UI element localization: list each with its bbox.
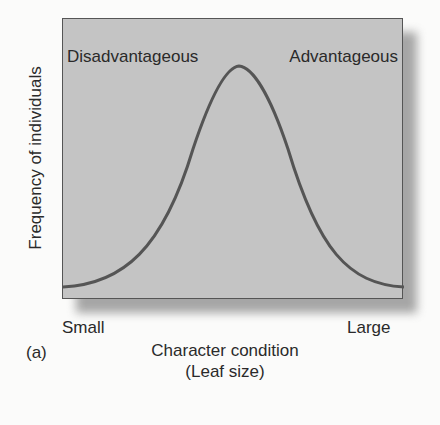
x-tick-large: Large [347,318,390,338]
x-tick-small: Small [62,318,105,338]
x-axis-label-line2: (Leaf size) [0,361,440,382]
annotation-disadvantageous: Disadvantageous [67,47,198,67]
x-axis-label: Character condition (Leaf size) [0,340,440,382]
annotation-advantageous: Advantageous [289,47,398,67]
plot-area: Disadvantageous Advantageous [62,18,403,299]
y-axis-label: Frequency of individuals [26,66,46,249]
x-axis-label-line1: Character condition [0,340,440,361]
